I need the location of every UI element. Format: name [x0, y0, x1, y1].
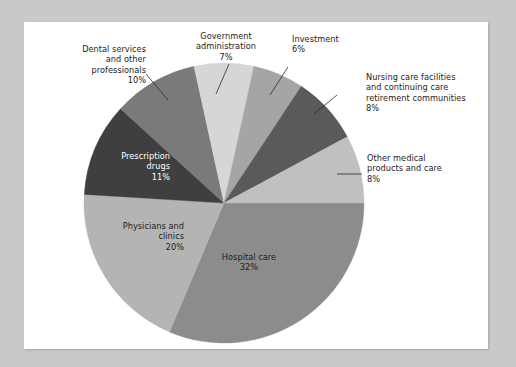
slice-label-other-medical: Other medical products and care 8%	[367, 153, 477, 184]
slice-label-government: Government administration 7%	[171, 31, 281, 62]
slice-label-physicians: Physicians and clinics 20%	[82, 221, 184, 252]
slice-label-dental: Dental services and other professionals …	[42, 44, 146, 85]
pie-chart: Dental services and other professionals …	[24, 22, 488, 349]
slice-label-nursing: Nursing care facilities and continuing c…	[366, 72, 488, 113]
slice-label-investment: Investment 6%	[292, 34, 374, 55]
chart-card: Dental services and other professionals …	[24, 22, 488, 349]
pie-slice-group	[84, 63, 364, 343]
slice-label-hospital-care: Hospital care 32%	[194, 252, 304, 273]
page-background: Dental services and other professionals …	[0, 0, 516, 367]
slice-label-prescription-drugs: Prescription drugs 11%	[86, 151, 170, 182]
